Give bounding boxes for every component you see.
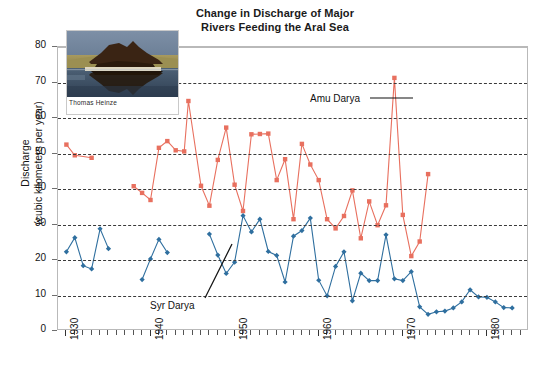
title-line-1: Change in Discharge of Major <box>0 6 550 20</box>
x-axis-tick-label: 1950 <box>238 318 249 340</box>
x-axis-minor-tick <box>377 330 378 335</box>
data-point <box>418 239 422 243</box>
data-point <box>257 217 262 222</box>
x-axis-minor-tick <box>301 330 302 335</box>
x-axis-tick-label: 1940 <box>154 318 165 340</box>
x-axis-minor-tick <box>343 330 344 335</box>
data-point <box>442 309 447 314</box>
x-axis-major-tick <box>318 330 319 336</box>
data-point <box>106 246 111 251</box>
data-point <box>140 277 145 282</box>
data-point <box>64 142 68 146</box>
data-point <box>165 139 169 143</box>
x-axis-minor-tick <box>419 330 420 335</box>
data-point <box>274 253 279 258</box>
y-axis-tick-label: 10 <box>12 288 46 299</box>
x-axis-major-tick <box>402 330 403 336</box>
data-point <box>392 76 396 80</box>
grid-line <box>58 189 527 190</box>
x-axis-minor-tick <box>208 330 209 335</box>
data-point <box>282 279 287 284</box>
series-line <box>66 229 108 269</box>
series-syr-darya <box>64 213 515 317</box>
data-point <box>140 191 144 195</box>
data-point <box>333 264 338 269</box>
data-point <box>207 231 212 236</box>
grid-line <box>58 260 527 261</box>
data-point <box>308 162 312 166</box>
series-line <box>209 216 512 315</box>
y-axis-title: Discharge (cubic kilometers per year) <box>19 68 45 258</box>
x-axis-minor-tick <box>217 330 218 335</box>
data-point <box>434 309 439 314</box>
data-point <box>89 266 94 271</box>
x-axis-minor-tick <box>335 330 336 335</box>
x-axis-minor-tick <box>225 330 226 335</box>
x-axis-minor-tick <box>141 330 142 335</box>
data-point <box>409 254 413 258</box>
grid-line <box>58 296 527 297</box>
data-point <box>291 217 295 221</box>
y-axis-title-line-1: Discharge <box>19 68 32 258</box>
data-point <box>359 236 363 240</box>
x-axis-minor-tick <box>461 330 462 335</box>
data-point <box>333 226 337 230</box>
x-axis-tick-label: 1980 <box>490 318 501 340</box>
x-axis-ticks <box>57 330 528 336</box>
x-axis-minor-tick <box>360 330 361 335</box>
data-point <box>72 235 77 240</box>
x-axis-minor-tick <box>276 330 277 335</box>
x-axis-major-tick <box>486 330 487 336</box>
data-point <box>316 278 321 283</box>
data-point <box>300 142 304 146</box>
x-axis-major-tick <box>150 330 151 336</box>
x-axis-minor-tick <box>293 330 294 335</box>
data-point <box>510 305 515 310</box>
data-point <box>341 249 346 254</box>
x-axis-minor-tick <box>393 330 394 335</box>
x-axis-minor-tick <box>452 330 453 335</box>
data-point <box>64 249 69 254</box>
data-point <box>224 125 228 129</box>
inset-photo: Thomas Heinze <box>66 30 179 115</box>
data-point <box>216 158 220 162</box>
data-point <box>426 172 430 176</box>
data-point <box>266 131 270 135</box>
data-point <box>215 252 220 257</box>
x-axis-minor-tick <box>267 330 268 335</box>
data-point <box>383 232 388 237</box>
data-point <box>266 249 271 254</box>
data-point <box>207 204 211 208</box>
data-point <box>375 278 380 283</box>
x-axis-minor-tick <box>99 330 100 335</box>
x-axis-minor-tick <box>200 330 201 335</box>
data-point <box>325 217 329 221</box>
x-axis-minor-tick <box>116 330 117 335</box>
data-point <box>156 237 161 242</box>
series-line <box>66 145 91 158</box>
data-point <box>199 184 203 188</box>
x-axis-minor-tick <box>124 330 125 335</box>
boat-photo-image <box>67 31 178 97</box>
x-axis-minor-tick <box>520 330 521 335</box>
x-axis-minor-tick <box>427 330 428 335</box>
x-axis-minor-tick <box>503 330 504 335</box>
x-axis-minor-tick <box>82 330 83 335</box>
x-axis-minor-tick <box>91 330 92 335</box>
x-axis-minor-tick <box>259 330 260 335</box>
data-point <box>132 184 136 188</box>
data-point <box>283 157 287 161</box>
data-point <box>401 213 405 217</box>
x-axis-minor-tick <box>175 330 176 335</box>
data-point <box>241 209 245 213</box>
x-axis-minor-tick <box>192 330 193 335</box>
data-point <box>342 214 346 218</box>
x-axis-tick-label: 1930 <box>69 318 80 340</box>
data-point <box>275 178 279 182</box>
x-axis-minor-tick <box>309 330 310 335</box>
x-axis-minor-tick <box>351 330 352 335</box>
data-point <box>186 99 190 103</box>
x-axis-minor-tick <box>166 330 167 335</box>
grid-line <box>58 118 527 119</box>
data-point <box>367 199 371 203</box>
